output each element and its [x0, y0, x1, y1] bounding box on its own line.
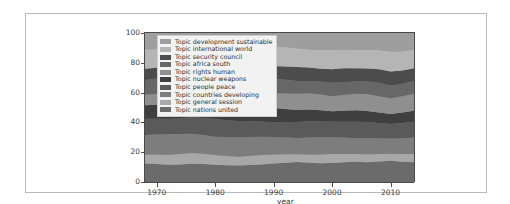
y-tick-mark	[141, 93, 145, 94]
axis-spine-bottom	[144, 182, 414, 183]
y-tick-mark	[141, 63, 145, 64]
legend-label: Topic security council	[175, 54, 242, 60]
legend-label: Topic general session	[175, 99, 242, 105]
y-tick-label: 100	[126, 29, 140, 37]
x-tick-label: 1980	[206, 189, 225, 197]
legend-label: Topic countries developing	[175, 92, 259, 98]
x-tick-label: 1990	[264, 189, 283, 197]
legend-swatch	[160, 77, 171, 82]
x-tick-mark	[215, 183, 216, 187]
x-tick-mark	[332, 183, 333, 187]
legend-label: Topic nuclear weapons	[175, 76, 246, 82]
legend-swatch	[160, 70, 171, 75]
legend-swatch	[160, 100, 171, 105]
legend-swatch	[160, 62, 171, 67]
legend-label: Topic people peace	[175, 84, 235, 90]
chart-legend: Topic development sustainableTopic inter…	[157, 35, 277, 117]
x-axis-title: year	[277, 198, 294, 204]
legend-label: Topic international world	[175, 46, 252, 52]
y-tick-label: 80	[130, 59, 140, 67]
y-tick-mark	[141, 182, 145, 183]
legend-item: Topic general session	[160, 99, 272, 106]
x-tick-mark	[157, 183, 158, 187]
x-tick-label: 1970	[147, 189, 166, 197]
axis-spine-right	[414, 32, 415, 182]
x-tick-mark	[391, 183, 392, 187]
legend-label: Topic africa south	[175, 61, 230, 67]
legend-swatch	[160, 92, 171, 97]
y-tick-label: 0	[135, 178, 140, 186]
legend-label: Topic rights human	[175, 69, 235, 75]
y-tick-mark	[141, 33, 145, 34]
y-tick-mark	[141, 122, 145, 123]
x-tick-label: 2010	[381, 189, 400, 197]
legend-item: Topic international world	[160, 46, 272, 53]
legend-swatch	[160, 39, 171, 44]
y-tick-label: 20	[130, 148, 140, 156]
x-tick-mark	[274, 183, 275, 187]
legend-item: Topic nations united	[160, 106, 272, 113]
legend-item: Topic people peace	[160, 84, 272, 91]
y-tick-mark	[141, 152, 145, 153]
legend-label: Topic nations united	[175, 107, 238, 113]
axis-spine-left	[144, 33, 145, 182]
y-tick-label: 40	[130, 119, 140, 127]
legend-swatch	[160, 107, 171, 112]
figure-frame: 020406080100 19701980199020002010 year T…	[25, 13, 487, 193]
legend-swatch	[160, 55, 171, 60]
axis-spine-top	[144, 32, 414, 33]
x-tick-label: 2000	[323, 189, 342, 197]
legend-swatch	[160, 47, 171, 52]
legend-swatch	[160, 85, 171, 90]
y-tick-label: 60	[130, 89, 140, 97]
legend-label: Topic development sustainable	[175, 39, 272, 45]
